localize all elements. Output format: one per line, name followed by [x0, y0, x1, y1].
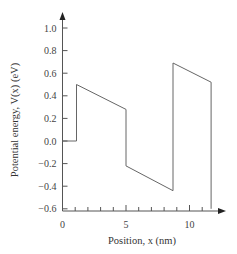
x-tick-label: 5: [124, 219, 129, 230]
y-axis-title: Potential energy, V(x) (eV): [9, 62, 21, 177]
potential-curve: [63, 63, 212, 209]
potential-energy-chart: −0.6−0.4−0.20.00.20.40.60.81.0 0510 Posi…: [0, 0, 237, 254]
y-tick-label: −0.2: [38, 158, 56, 169]
x-tick-label: 0: [60, 219, 65, 230]
y-tick-label: 0.0: [44, 136, 57, 147]
y-tick-label: 0.8: [44, 45, 57, 56]
x-tick-label: 10: [185, 219, 195, 230]
y-tick-label: 0.2: [44, 113, 57, 124]
x-axis-title: Position, x (nm): [108, 235, 176, 247]
y-tick-label: 1.0: [44, 23, 57, 34]
y-tick-label: 0.4: [44, 90, 57, 101]
x-axis-ticks: 0510: [60, 205, 202, 230]
y-tick-label: −0.6: [38, 203, 56, 214]
y-tick-label: 0.6: [44, 68, 57, 79]
y-axis-ticks: −0.6−0.4−0.20.00.20.40.60.81.0: [38, 23, 67, 215]
y-tick-label: −0.4: [38, 181, 56, 192]
